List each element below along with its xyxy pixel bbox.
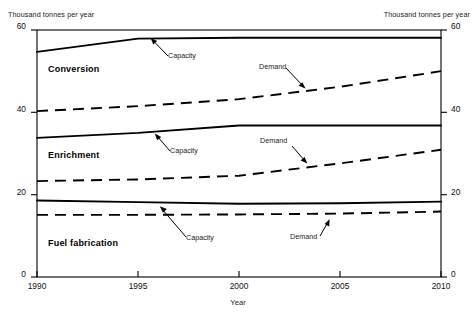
plot-canvas bbox=[0, 0, 476, 322]
yr-tick-label-0: 0 bbox=[451, 269, 473, 279]
yr-tick-label-40: 40 bbox=[451, 104, 473, 114]
x-tick-label-2000: 2000 bbox=[219, 281, 259, 291]
fuel-capacity-line bbox=[37, 200, 441, 203]
enrichment-demand-arrow bbox=[292, 146, 307, 164]
arrow-head bbox=[325, 219, 330, 226]
x-tick-label-1995: 1995 bbox=[118, 281, 158, 291]
group-label-fuel-fabrication: Fuel fabrication bbox=[48, 238, 118, 248]
series-fuel-demand bbox=[37, 212, 441, 215]
yr-tick-label-60: 60 bbox=[451, 21, 473, 31]
fuel-demand-line bbox=[37, 212, 441, 215]
group-label-conversion: Conversion bbox=[48, 64, 100, 74]
annotation-fuel-capacity: Capacity bbox=[186, 233, 214, 242]
enrichment-capacity-arrow bbox=[155, 134, 170, 152]
y-tick-label-0: 0 bbox=[4, 269, 26, 279]
annotation-enrichment-demand: Demand bbox=[260, 136, 287, 145]
chart-figure: Thousand tonnes per year Thousand tonnes… bbox=[0, 0, 476, 322]
enrichment-capacity-line bbox=[37, 126, 441, 138]
x-axis-title: Year bbox=[0, 298, 476, 307]
right-y-ticks bbox=[441, 30, 447, 277]
group-label-enrichment: Enrichment bbox=[48, 150, 100, 160]
arrow-head bbox=[160, 206, 167, 212]
left-y-ticks bbox=[31, 30, 37, 277]
conversion-demand-arrow bbox=[286, 68, 306, 89]
yr-tick-label-20: 20 bbox=[451, 187, 473, 197]
arrow-shaft bbox=[286, 68, 303, 86]
x-ticks bbox=[37, 271, 441, 277]
x-tick-label-2005: 2005 bbox=[320, 281, 360, 291]
y-tick-label-40: 40 bbox=[4, 104, 26, 114]
y-tick-label-60: 60 bbox=[4, 21, 26, 31]
annotation-conversion-demand: Demand bbox=[259, 62, 286, 71]
fuel-capacity-arrow bbox=[160, 206, 186, 237]
series-conversion-capacity bbox=[37, 38, 441, 52]
series-enrichment-capacity bbox=[37, 126, 441, 138]
conversion-demand-line bbox=[37, 71, 441, 111]
y-tick-label-20: 20 bbox=[4, 187, 26, 197]
fuel-demand-arrow bbox=[320, 219, 330, 236]
annotation-enrichment-capacity: Capacity bbox=[170, 146, 198, 155]
conversion-capacity-arrow bbox=[151, 38, 169, 56]
conversion-capacity-line bbox=[37, 38, 441, 52]
arrow-shaft bbox=[162, 209, 186, 237]
series-conversion-demand bbox=[37, 71, 441, 111]
annotation-fuel-demand: Demand bbox=[290, 232, 317, 241]
x-tick-label-1990: 1990 bbox=[17, 281, 57, 291]
x-tick-label-2010: 2010 bbox=[421, 281, 461, 291]
series-fuel-capacity bbox=[37, 200, 441, 203]
arrow-head bbox=[301, 157, 308, 164]
annotation-conversion-capacity: Capacity bbox=[168, 51, 196, 60]
